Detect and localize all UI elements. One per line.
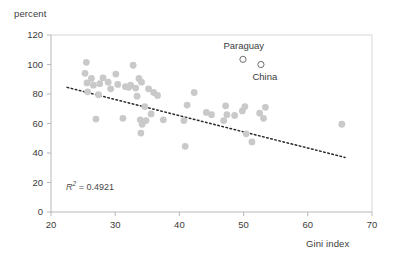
data-point xyxy=(90,82,97,89)
data-point xyxy=(120,115,127,122)
y-tick-label: 40 xyxy=(17,147,43,158)
data-point xyxy=(231,112,238,119)
data-point xyxy=(222,102,229,109)
data-point xyxy=(208,111,215,118)
data-point xyxy=(249,139,256,146)
data-point xyxy=(260,115,267,122)
x-tick-label: 60 xyxy=(295,219,321,230)
data-point xyxy=(184,102,191,109)
data-point xyxy=(96,80,103,87)
data-point xyxy=(138,79,145,86)
x-tick-label: 30 xyxy=(102,219,128,230)
data-point xyxy=(82,70,89,77)
data-point xyxy=(220,117,227,124)
data-point xyxy=(93,116,100,123)
x-tick-label: 40 xyxy=(166,219,192,230)
data-point xyxy=(130,62,137,69)
x-tick-label: 50 xyxy=(231,219,257,230)
highlighted-data-point xyxy=(258,61,264,67)
data-point xyxy=(95,91,102,98)
data-point xyxy=(100,74,107,81)
data-point xyxy=(338,121,345,128)
data-point xyxy=(243,130,250,137)
data-point xyxy=(107,85,114,92)
data-point xyxy=(112,71,119,78)
data-point xyxy=(84,88,91,95)
y-tick-label: 60 xyxy=(17,118,43,129)
y-tick-label: 120 xyxy=(17,29,43,40)
data-point xyxy=(137,130,144,137)
scatter-chart: percent Gini index R2 = 0.4921 020406080… xyxy=(0,0,396,260)
data-point xyxy=(224,111,231,118)
x-tick-label: 20 xyxy=(38,219,64,230)
trendline xyxy=(67,87,345,157)
y-tick-label: 20 xyxy=(17,177,43,188)
data-point xyxy=(191,89,198,96)
data-point xyxy=(141,103,148,110)
point-label-paraguay: Paraguay xyxy=(223,40,264,51)
data-point xyxy=(180,117,187,124)
y-tick-label: 80 xyxy=(17,88,43,99)
axis-ticks xyxy=(47,35,372,216)
scatter-points xyxy=(82,59,346,150)
data-point xyxy=(262,104,269,111)
y-tick-label: 0 xyxy=(17,206,43,217)
data-point xyxy=(241,103,248,110)
data-point xyxy=(160,116,167,123)
data-point xyxy=(83,59,90,66)
data-point xyxy=(134,93,141,100)
data-point xyxy=(148,111,155,118)
data-point xyxy=(154,92,161,99)
x-tick-label: 70 xyxy=(359,219,385,230)
data-point xyxy=(182,143,189,150)
data-point xyxy=(132,85,139,92)
data-point xyxy=(105,79,112,86)
highlighted-points xyxy=(240,56,264,67)
highlighted-data-point xyxy=(240,56,246,62)
data-point xyxy=(114,81,121,88)
data-point xyxy=(143,117,150,124)
data-point xyxy=(88,75,95,82)
y-tick-label: 100 xyxy=(17,59,43,70)
point-label-china: China xyxy=(252,71,277,82)
